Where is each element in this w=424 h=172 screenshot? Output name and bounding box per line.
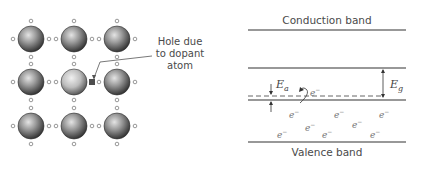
valence-electron-icon (115, 19, 119, 23)
valence-electron-icon (72, 62, 76, 66)
valence-electron-icon (115, 106, 119, 110)
electron-label: e− (352, 116, 362, 131)
electron-label: e− (334, 106, 344, 121)
valence-electron-icon (29, 106, 33, 110)
valence-electron-icon (72, 98, 76, 102)
silicon-atom (18, 113, 44, 139)
valence-electron-icon (133, 80, 137, 84)
valence-electron-icon (115, 55, 119, 59)
electron-label: e− (322, 126, 332, 141)
valence-electron-icon (115, 98, 119, 102)
valence-electron-icon (29, 142, 33, 146)
lattice-graphic (0, 0, 212, 172)
valence-electron-icon (47, 37, 51, 41)
hole-marker (89, 79, 95, 85)
electron-label: e− (289, 106, 299, 121)
valence-electron-icon (90, 124, 94, 128)
annotation-line-2: to dopant (152, 48, 208, 60)
valence-electron-icon (72, 55, 76, 59)
annotation-line-3: atom (152, 60, 208, 72)
eg-label: Eg (390, 79, 403, 95)
valence-band-label: Valence band (248, 146, 406, 158)
silicon-atom (104, 26, 130, 52)
silicon-atom (18, 69, 44, 95)
valence-electron-icon (90, 37, 94, 41)
valence-electron-icon (133, 124, 137, 128)
valence-electron-icon (72, 142, 76, 146)
electron-label: e− (277, 126, 287, 141)
silicon-atom (104, 113, 130, 139)
conduction-band-label: Conduction band (248, 14, 406, 26)
silicon-atom (61, 113, 87, 139)
silicon-atom (61, 26, 87, 52)
valence-electron-icon (72, 19, 76, 23)
dopant-atom (61, 69, 87, 95)
crystal-lattice-diagram: Hole due to dopant atom (0, 0, 212, 172)
annotation-line-1: Hole due (152, 36, 208, 48)
energy-band-diagram: Conduction band Valence band Ea Eg e−e−e… (212, 0, 424, 172)
valence-electron-icon (72, 106, 76, 110)
valence-electron-icon (47, 124, 51, 128)
valence-electron-icon (115, 62, 119, 66)
atoms-group (11, 19, 137, 146)
electron-label: e− (310, 84, 320, 99)
valence-electron-icon (97, 37, 101, 41)
ea-symbol: E (276, 78, 284, 91)
valence-electron-icon (29, 98, 33, 102)
silicon-atom (104, 69, 130, 95)
valence-electron-icon (115, 142, 119, 146)
valence-electron-icon (47, 80, 51, 84)
valence-electron-icon (97, 80, 101, 84)
valence-electron-icon (29, 55, 33, 59)
valence-electron-icon (54, 124, 58, 128)
electron-label: e− (379, 106, 389, 121)
eg-symbol: E (390, 78, 398, 91)
electron-label: e− (370, 126, 380, 141)
hole-annotation: Hole due to dopant atom (152, 36, 208, 72)
arrow-down-icon (269, 91, 273, 95)
ea-label: Ea (276, 79, 289, 95)
silicon-atom (18, 26, 44, 52)
valence-electron-icon (11, 124, 15, 128)
valence-electron-icon (11, 37, 15, 41)
electron-label: e− (305, 119, 315, 134)
valence-electron-icon (54, 80, 58, 84)
valence-electron-icon (133, 37, 137, 41)
valence-electron-icon (54, 37, 58, 41)
arrow-up-icon (381, 69, 385, 73)
valence-electron-icon (97, 124, 101, 128)
valence-electron-icon (11, 80, 15, 84)
arrow-down-icon (381, 94, 385, 98)
eg-subscript: g (398, 84, 403, 93)
valence-electron-icon (29, 62, 33, 66)
arrow-up-icon (269, 101, 273, 105)
valence-electron-icon (29, 19, 33, 23)
ea-subscript: a (284, 84, 289, 93)
